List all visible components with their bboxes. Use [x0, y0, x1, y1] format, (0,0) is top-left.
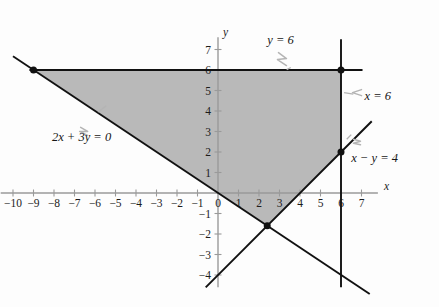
- y-tick-label--3: −3: [199, 249, 211, 261]
- x-tick-label--7: −7: [68, 197, 80, 209]
- y-tick-label--1: −1: [199, 208, 211, 220]
- x-tick-label--3: −3: [150, 197, 162, 209]
- x-tick-label-3: 3: [277, 197, 283, 209]
- equation-label-3: x − y = 4: [350, 151, 398, 165]
- equation-label-1: x = 6: [364, 89, 392, 103]
- y-tick-label-2: 2: [205, 146, 211, 158]
- equation-label-2: 2x + 3y = 0: [52, 130, 112, 144]
- x-tick-label-4: 4: [297, 197, 303, 209]
- y-tick-label--4: −4: [199, 269, 211, 281]
- vertex-point-2: [338, 149, 345, 156]
- vertex-point-1: [338, 67, 345, 74]
- x-tick-label--4: −4: [130, 197, 142, 209]
- y-tick-label-4: 4: [205, 105, 211, 117]
- y-tick-label-5: 5: [205, 85, 211, 97]
- x-tick-label--5: −5: [109, 197, 121, 209]
- x-axis-name: x: [383, 180, 390, 192]
- x-tick-label-2: 2: [256, 197, 262, 209]
- x-tick-label--10: −10: [4, 197, 22, 209]
- x-tick-label--9: −9: [27, 197, 39, 209]
- y-tick-label--2: −2: [199, 228, 211, 240]
- x-tick-label-5: 5: [318, 197, 324, 209]
- leader-tip-x-y-4: [347, 135, 352, 140]
- vertex-point-3: [264, 222, 271, 229]
- x-tick-label-0: 0: [215, 197, 221, 209]
- y-axis-name: y: [222, 26, 229, 39]
- graph-figure: −10−9−8−7−6−5−4−3−2−101234567−4−3−2−1123…: [0, 0, 439, 307]
- y-tick-label-3: 3: [205, 126, 211, 138]
- x-tick-label--2: −2: [171, 197, 183, 209]
- x-tick-label-7: 7: [359, 197, 365, 209]
- leader-squiggle-x-y-4: [353, 139, 360, 145]
- vertex-point-0: [30, 67, 37, 74]
- leader-squiggle-y-equals-6: [277, 53, 286, 66]
- y-tick-label-1: 1: [205, 167, 211, 179]
- y-tick-label-7: 7: [205, 44, 211, 56]
- x-tick-label--6: −6: [89, 197, 101, 209]
- leader-squiggle-x-equals-6: [353, 90, 362, 96]
- equation-label-0: y = 6: [265, 33, 294, 47]
- coordinate-plane: −10−9−8−7−6−5−4−3−2−101234567−4−3−2−1123…: [0, 0, 439, 307]
- x-tick-label--8: −8: [48, 197, 60, 209]
